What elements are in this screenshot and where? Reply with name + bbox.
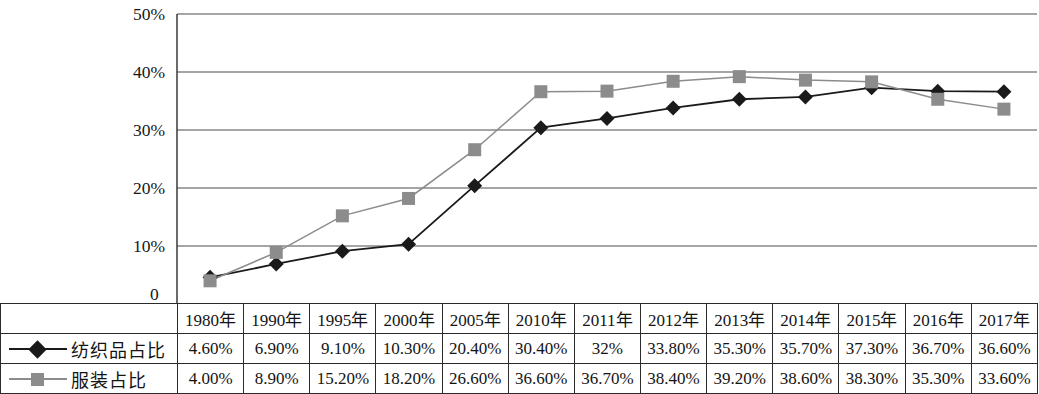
data-point-2-1995年 [336,209,349,222]
square-marker-icon [9,371,67,387]
table-cell-2-1990年: 8.90% [244,364,310,394]
table-cell-1-2015年: 37.30% [839,334,905,364]
legend-label: 纺织品占比 [71,336,166,362]
table-header-2000年: 2000年 [376,304,442,334]
data-point-2-2010年 [534,85,547,98]
table-header-2005年: 2005年 [442,304,508,334]
series-lines [210,77,1004,281]
table-cell-1-1980年: 4.60% [178,334,244,364]
table-corner-cell [1,304,178,334]
table-cell-2-2012年: 38.40% [641,364,707,394]
table-cell-1-2000年: 10.30% [376,334,442,364]
table-cell-1-2017年: 36.60% [971,334,1037,364]
table-cell-1-2005年: 20.40% [442,334,508,364]
table-cell-2-2011年: 36.70% [574,364,640,394]
table-header-1990年: 1990年 [244,304,310,334]
legend-item-1[interactable]: 纺织品占比 [1,334,178,364]
table-header-2016年: 2016年 [905,304,971,334]
table-header-1995年: 1995年 [310,304,376,334]
table-cell-1-2014年: 35.70% [773,334,839,364]
table-cell-2-1980年: 4.00% [178,364,244,394]
data-point-1-2011年 [600,111,615,126]
table-cell-2-2010年: 36.60% [508,364,574,394]
table-cell-2-2013年: 39.20% [707,364,773,394]
table-cell-2-2015年: 38.30% [839,364,905,394]
table-cell-1-1990年: 6.90% [244,334,310,364]
table-row: 服装占比4.00%8.90%15.20%18.20%26.60%36.60%36… [1,364,1038,394]
data-point-2-2012年 [667,75,680,88]
data-point-2-2014年 [799,74,812,87]
data-point-2-2017年 [997,103,1010,116]
data-point-2-2005年 [468,143,481,156]
data-point-2-2016年 [931,93,944,106]
table-header-2011年: 2011年 [574,304,640,334]
diamond-marker-icon [9,341,67,357]
data-point-2-2015年 [865,75,878,88]
table-cell-1-2010年: 30.40% [508,334,574,364]
table-cell-1-2016年: 36.70% [905,334,971,364]
data-point-2-1980年 [204,274,217,287]
legend-marker [28,340,46,358]
data-table-wrapper: 1980年1990年1995年2000年2005年2010年2011年2012年… [0,303,1039,394]
table-header-2012年: 2012年 [641,304,707,334]
data-point-1-2012年 [666,100,681,115]
data-point-2-2011年 [601,85,614,98]
table-cell-1-1995年: 9.10% [310,334,376,364]
legend-label: 服装占比 [71,366,147,392]
table-cell-2-1995年: 15.20% [310,364,376,394]
table-header-2017年: 2017年 [971,304,1037,334]
gridlines [177,14,1037,246]
table-row: 纺织品占比4.60%6.90%9.10%10.30%20.40%30.40%32… [1,334,1038,364]
data-point-1-2017年 [996,84,1011,99]
table-header-2010年: 2010年 [508,304,574,334]
table-header-row: 1980年1990年1995年2000年2005年2010年2011年2012年… [1,304,1038,334]
table-cell-2-2014年: 38.60% [773,364,839,394]
table-cell-1-2012年: 33.80% [641,334,707,364]
table-header-2013年: 2013年 [707,304,773,334]
legend-item-2[interactable]: 服装占比 [1,364,178,394]
table-header-1980年: 1980年 [178,304,244,334]
table-header-2014年: 2014年 [773,304,839,334]
axis-lines [177,14,1037,304]
table-cell-2-2017年: 33.60% [971,364,1037,394]
data-point-2-1990年 [270,246,283,259]
data-point-2-2013年 [733,70,746,83]
table-header-2015年: 2015年 [839,304,905,334]
series-line-2 [210,77,1004,281]
data-point-1-2014年 [798,89,813,104]
data-table: 1980年1990年1995年2000年2005年2010年2011年2012年… [0,303,1038,394]
line-chart-plot-area: 50% 40% 30% 20% 10% 0 [0,0,1039,306]
data-point-2-2000年 [402,192,415,205]
table-cell-2-2016年: 35.30% [905,364,971,394]
chart-svg [0,0,1039,306]
table-cell-1-2013年: 35.30% [707,334,773,364]
table-cell-2-2000年: 18.20% [376,364,442,394]
data-point-1-2013年 [732,92,747,107]
table-cell-2-2005年: 26.60% [442,364,508,394]
legend-marker [31,373,44,386]
table-cell-1-2011年: 32% [574,334,640,364]
